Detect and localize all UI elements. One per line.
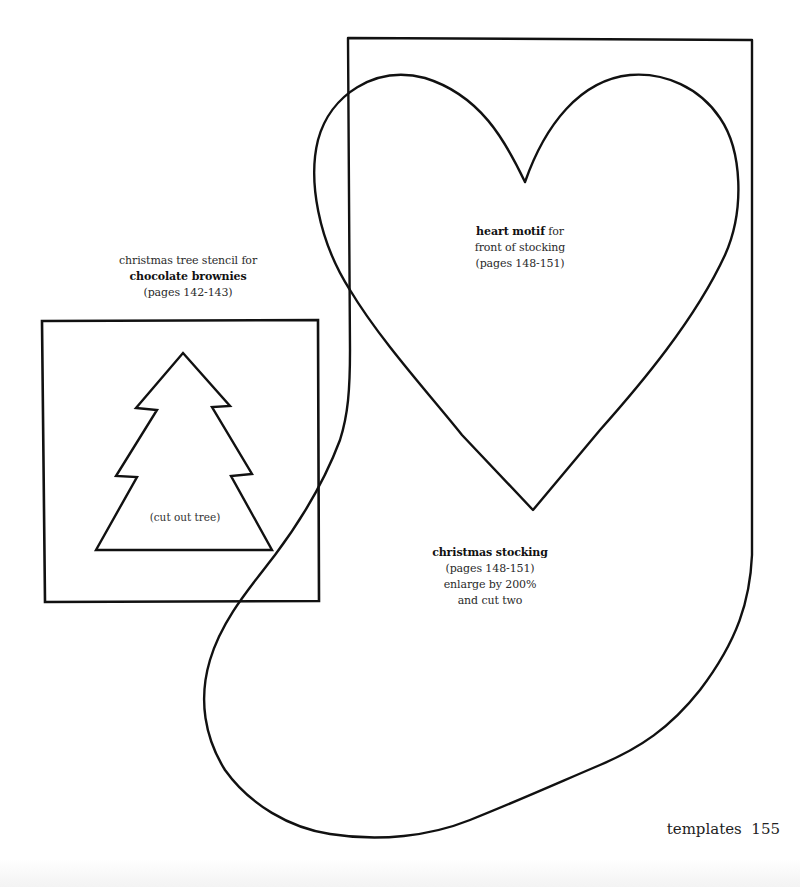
stencil-square-outline [42, 320, 319, 602]
heart-caption-title: heart motif [476, 225, 545, 238]
page-number: 155 [751, 820, 780, 838]
heart-motif-caption: heart motif for front of stocking (pages… [425, 224, 615, 272]
footer-section-name: templates [667, 820, 742, 838]
tree-caption-intro: christmas tree stencil for [95, 253, 281, 269]
heart-caption-suffix: for [545, 225, 564, 238]
tree-caption-pages: (pages 142-143) [95, 285, 281, 301]
heart-caption-purpose: front of stocking [425, 240, 615, 256]
stocking-caption: christmas stocking (pages 148-151) enlar… [405, 545, 575, 609]
stocking-caption-pages: (pages 148-151) [405, 561, 575, 577]
tree-caption-title: chocolate brownies [129, 270, 246, 283]
tree-cut-instruction: (cut out tree) [130, 511, 240, 523]
page-footer: templates 155 [600, 820, 780, 838]
stocking-outline [204, 38, 752, 838]
template-page: christmas tree stencil for chocolate bro… [0, 0, 800, 887]
heart-outline [314, 75, 738, 510]
stocking-caption-title: christmas stocking [432, 546, 548, 559]
template-outlines [0, 0, 800, 887]
tree-stencil-caption: christmas tree stencil for chocolate bro… [95, 253, 281, 301]
stocking-caption-enlarge: enlarge by 200% [405, 577, 575, 593]
heart-caption-pages: (pages 148-151) [425, 256, 615, 272]
scan-edge-shadow [0, 859, 800, 887]
stocking-caption-cut: and cut two [405, 593, 575, 609]
